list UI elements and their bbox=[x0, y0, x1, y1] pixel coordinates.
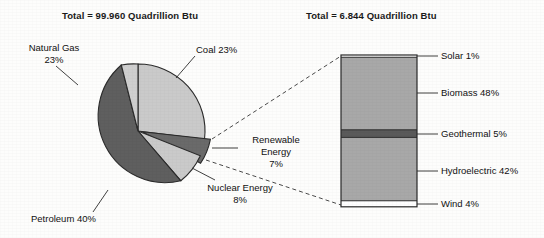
leader-line-petroleum bbox=[93, 190, 108, 212]
bar-label-hydroelectric: Hydroelectric 42% bbox=[441, 165, 518, 177]
pie-label-nuclear-energy-name: Nuclear Energy bbox=[194, 182, 286, 194]
pie-label-nuclear-energy-value: 8% bbox=[194, 194, 286, 206]
pie-label-natural-gas-name: Natural Gas bbox=[10, 42, 98, 54]
bar-segment-geothermal bbox=[341, 130, 417, 138]
pie-label-renewable-energy: Renewable Energy 7% bbox=[238, 134, 314, 170]
pie-label-renewable-energy-name-line1: Renewable bbox=[238, 134, 314, 146]
bar-segment-biomass bbox=[341, 57, 417, 130]
bar-label-geothermal: Geothermal 5% bbox=[441, 128, 507, 140]
connector-line-top bbox=[212, 56, 341, 139]
pie-label-natural-gas: Natural Gas 23% bbox=[10, 42, 98, 66]
pie-label-coal: Coal 23% bbox=[196, 44, 237, 56]
bar-segment-hydroelectric bbox=[341, 137, 417, 200]
pie-label-natural-gas-value: 23% bbox=[10, 54, 98, 66]
energy-consumption-figure: Total = 99.960 Quadrillion Btu Total = 6… bbox=[0, 0, 544, 238]
pie-label-petroleum: Petroleum 40% bbox=[31, 213, 96, 225]
bar-label-biomass: Biomass 48% bbox=[441, 87, 499, 99]
pie-label-renewable-energy-name-line2: Energy bbox=[238, 146, 314, 158]
bar-label-solar: Solar 1% bbox=[441, 50, 480, 62]
stacked-bar-chart bbox=[341, 55, 438, 207]
pie-label-nuclear-energy: Nuclear Energy 8% bbox=[194, 182, 286, 206]
leader-line-natural-gas bbox=[56, 66, 78, 85]
pie-label-renewable-energy-value: 7% bbox=[238, 158, 314, 170]
leader-line-nuclear-energy bbox=[192, 168, 215, 180]
bar-segment-wind bbox=[341, 201, 417, 207]
leader-line-coal bbox=[176, 56, 195, 78]
bar-label-wind: Wind 4% bbox=[441, 198, 479, 210]
pie-slice-coal bbox=[138, 64, 205, 139]
